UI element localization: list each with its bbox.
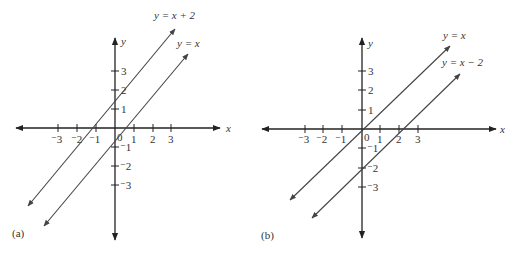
svg-text:⁻2: ⁻2: [120, 160, 131, 172]
svg-text:3: 3: [368, 65, 374, 77]
svg-text:⁻1: ⁻1: [335, 133, 346, 145]
svg-text:2: 2: [368, 84, 374, 96]
svg-text:3: 3: [168, 133, 174, 145]
svg-text:1: 1: [368, 104, 374, 116]
svg-text:3: 3: [415, 133, 421, 145]
y-axis-label: y: [120, 35, 126, 47]
series-label-b1: y = x: [442, 29, 466, 41]
panel-label-b: (b): [261, 229, 274, 242]
line-y-eq-x-plus-2: [28, 29, 175, 206]
svg-text:⁻3: ⁻3: [298, 133, 310, 145]
svg-text:⁻3: ⁻3: [120, 179, 132, 191]
x-tick-labels: ⁻3 ⁻2 ⁻1 1 2 3 0: [51, 131, 174, 145]
svg-text:⁻1: ⁻1: [367, 142, 378, 154]
line-y-eq-x-minus-2: [312, 74, 460, 218]
svg-text:1: 1: [131, 133, 137, 145]
svg-text:⁻2: ⁻2: [367, 162, 378, 174]
svg-text:⁻1: ⁻1: [89, 133, 100, 145]
svg-text:1: 1: [121, 103, 127, 115]
panel-b: ⁻3 ⁻2 ⁻1 1 2 3 0 3 2 1 ⁻1 ⁻2 ⁻3 x y y = …: [261, 29, 505, 242]
svg-text:3: 3: [121, 65, 127, 77]
svg-text:⁻3: ⁻3: [51, 133, 63, 145]
series-label-b2: y = x − 2: [441, 56, 484, 68]
svg-text:⁻2: ⁻2: [316, 133, 327, 145]
svg-text:⁻1: ⁻1: [120, 141, 131, 153]
x-axis-label: x: [499, 123, 505, 135]
panel-label-a: (a): [12, 227, 25, 240]
y-axis-label: y: [367, 37, 373, 49]
line-y-eq-x: [44, 54, 188, 226]
panel-a: ⁻3 ⁻2 ⁻1 1 2 3 0 3 2 1 ⁻1 ⁻2 ⁻3 x y y = …: [12, 9, 231, 240]
svg-text:⁻3: ⁻3: [367, 181, 379, 193]
series-label-a2: y = x: [176, 37, 200, 49]
svg-text:2: 2: [150, 133, 156, 145]
series-label-a1: y = x + 2: [153, 9, 196, 21]
figure: ⁻3 ⁻2 ⁻1 1 2 3 0 3 2 1 ⁻1 ⁻2 ⁻3 x y y = …: [0, 0, 513, 253]
x-axis-label: x: [225, 122, 231, 134]
